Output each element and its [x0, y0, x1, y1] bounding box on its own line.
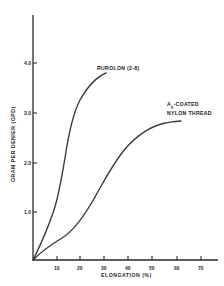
rurolon-label: RUROLON (2-8) [97, 65, 140, 71]
x-tick-label: 40 [125, 265, 131, 271]
ag-coated-label-line2: NYLON THREAD [167, 110, 212, 116]
x-tick-label: 70 [198, 265, 204, 271]
x-tick-label: 50 [149, 265, 155, 271]
x-tick-label: 30 [101, 265, 107, 271]
ag-coated-nylon-curve [33, 121, 181, 260]
y-tick-label: 4.0 [24, 60, 31, 66]
y-tick-label: 2.0 [24, 160, 31, 166]
x-tick-label: 10 [54, 265, 60, 271]
y-tick-label: 3.0 [24, 110, 31, 116]
stress-strain-chart: 1.0 2.0 3.0 4.0 10 20 30 40 50 60 70 ELO… [0, 0, 224, 286]
y-ticks: 1.0 2.0 3.0 4.0 [24, 60, 37, 215]
x-tick-label: 60 [174, 265, 180, 271]
y-tick-label: 1.0 [24, 209, 31, 215]
x-tick-label: 20 [77, 265, 83, 271]
ag-coated-label-line1: Ag-COATED [167, 101, 199, 109]
x-ticks: 10 20 30 40 50 60 70 [54, 256, 204, 271]
x-axis-label: ELONGATION (%) [101, 272, 152, 278]
y-axis-label: GRAM PER DENIER (GPD) [10, 106, 16, 182]
